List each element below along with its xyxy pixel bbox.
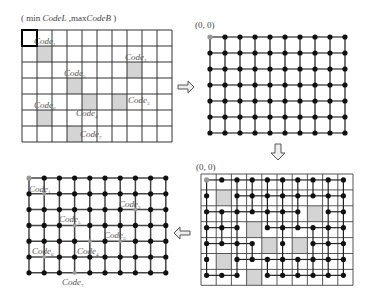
lattice-node (207, 66, 212, 71)
code-label: Code5 (59, 214, 81, 225)
lattice-node (148, 254, 153, 259)
lattice-node (219, 209, 224, 214)
lattice-node (222, 66, 227, 71)
lattice-node (234, 193, 239, 198)
lattice-node (297, 114, 302, 119)
lattice-node (282, 98, 287, 103)
lattice-node (280, 225, 285, 230)
top-right-origin-label: (0, 0) (195, 20, 215, 30)
lattice-node (267, 66, 272, 71)
lattice-node (163, 191, 168, 196)
code-label: Code5 (64, 68, 86, 79)
lattice-node (295, 193, 300, 198)
lattice-node (310, 225, 315, 230)
lattice-node (310, 241, 315, 246)
lattice-node (207, 98, 212, 103)
lattice-node (280, 273, 285, 278)
lattice-node (280, 193, 285, 198)
lattice-node (148, 191, 153, 196)
lattice-node (312, 114, 317, 119)
lattice-node (326, 225, 331, 230)
lattice-node (207, 114, 212, 119)
lattice-node (102, 223, 107, 228)
lattice-node (237, 34, 242, 39)
lattice-node (133, 239, 138, 244)
bottom-right-origin-label: (0, 0) (196, 162, 216, 172)
code-label: Code2 (119, 199, 141, 210)
lattice-node (327, 50, 332, 55)
lattice-node (252, 82, 257, 87)
code-label: Code7 (62, 277, 84, 288)
bottom-right-cell-node-overlay (201, 174, 353, 285)
top-left-cell-grid: Code1Code2Code5Code3Code6Code4Code7 (22, 30, 172, 142)
lattice-node (341, 177, 346, 182)
lattice-node (72, 191, 77, 196)
lattice-node (57, 191, 62, 196)
lattice-node (204, 241, 209, 246)
lattice-node (26, 254, 31, 259)
lattice-node (250, 209, 255, 214)
lattice-node (57, 270, 62, 275)
lattice-node (297, 130, 302, 135)
lattice-node (341, 273, 346, 278)
lattice-node (312, 66, 317, 71)
lattice-node (280, 257, 285, 262)
lattice-node (237, 66, 242, 71)
gray-cell (307, 206, 322, 222)
lattice-node (342, 98, 347, 103)
lattice-node (297, 34, 302, 39)
lattice-node (295, 257, 300, 262)
lattice-node (342, 50, 347, 55)
lattice-node (326, 193, 331, 198)
lattice-node (87, 175, 92, 180)
lattice-node (148, 270, 153, 275)
lattice-node (26, 270, 31, 275)
lattice-node (267, 50, 272, 55)
lattice-node (163, 254, 168, 259)
lattice-node (282, 114, 287, 119)
lattice-node (148, 239, 153, 244)
top-right-node-lattice (207, 34, 347, 135)
lattice-node (148, 223, 153, 228)
lattice-node (295, 177, 300, 182)
lattice-node (237, 114, 242, 119)
lattice-node (102, 175, 107, 180)
arrow-right-icon (178, 81, 194, 93)
lattice-node (265, 177, 270, 182)
lattice-node (87, 223, 92, 228)
lattice-node (310, 177, 315, 182)
lattice-node (252, 66, 257, 71)
lattice-node (295, 209, 300, 214)
lattice-node (72, 175, 77, 180)
lattice-node (237, 82, 242, 87)
lattice-node (310, 193, 315, 198)
lattice-node (267, 130, 272, 135)
lattice-node (312, 34, 317, 39)
lattice-node (163, 239, 168, 244)
lattice-node (342, 82, 347, 87)
lattice-node (342, 66, 347, 71)
lattice-node (234, 209, 239, 214)
lattice-node (282, 66, 287, 71)
lattice-node (252, 98, 257, 103)
lattice-node (222, 82, 227, 87)
gray-cell (37, 46, 52, 62)
lattice-node (26, 207, 31, 212)
lattice-node (341, 209, 346, 214)
code-label: Code2 (125, 52, 147, 63)
lattice-node (222, 50, 227, 55)
lattice-node (327, 130, 332, 135)
gray-cell (247, 222, 262, 238)
code-node (73, 271, 77, 275)
lattice-node (312, 130, 317, 135)
gray-cell (112, 94, 127, 110)
gray-cell (247, 269, 262, 285)
gray-cell (67, 78, 82, 94)
code-label: Code1 (29, 184, 51, 195)
lattice-node (282, 50, 287, 55)
lattice-node (102, 254, 107, 259)
lattice-node (219, 241, 224, 246)
lattice-node (42, 239, 47, 244)
lattice-node (234, 257, 239, 262)
lattice-node (72, 207, 77, 212)
